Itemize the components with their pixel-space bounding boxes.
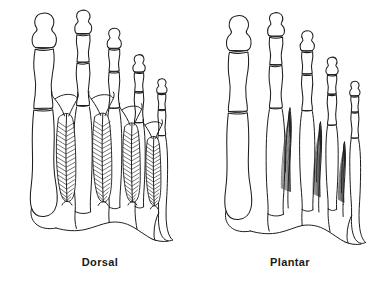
dorsal-2nd-middle-phalanx [76, 35, 90, 62]
dorsal-3rd-proximal-phalanx [108, 72, 119, 108]
plantar-hallux [225, 16, 252, 232]
plantar-4th-proximal-phalanx [327, 95, 337, 125]
dorsal-5th-distal-phalanx [157, 79, 167, 93]
plantar-4th-distal-phalanx [326, 57, 338, 74]
plantar-2nd-middle-phalanx [269, 37, 283, 64]
plantar-3rd-middle-phalanx [302, 52, 313, 74]
plantar-first-metatarsal [225, 113, 252, 220]
plantar-3rd-proximal-phalanx [301, 75, 312, 111]
plantar-5th-distal-phalanx [350, 81, 360, 95]
anatomy-plate: Dorsal [0, 0, 389, 299]
dorsal-2nd-proximal-phalanx [76, 63, 90, 106]
dorsal-4th-middle-phalanx [134, 73, 144, 92]
plantar-caption: Plantar [270, 256, 310, 268]
dorsal-5th-middle-phalanx [158, 94, 166, 110]
dorsal-3rd-middle-phalanx [109, 49, 120, 71]
dorsal-first-metatarsal [30, 110, 57, 217]
plantar-4th-middle-phalanx [327, 75, 337, 94]
dorsal-hallux [30, 13, 57, 229]
dorsal-hallux-proximal-phalanx [34, 49, 54, 108]
figure-root: Dorsal [0, 0, 389, 299]
plantar-hallux-proximal-phalanx [228, 52, 248, 111]
dorsal-caption: Dorsal [82, 256, 119, 268]
plantar-5th-middle-phalanx [351, 96, 359, 112]
dorsal-4th-distal-phalanx [133, 55, 145, 72]
plantar-2nd-proximal-phalanx [269, 66, 283, 109]
plantar-5th-proximal-phalanx [351, 113, 359, 138]
